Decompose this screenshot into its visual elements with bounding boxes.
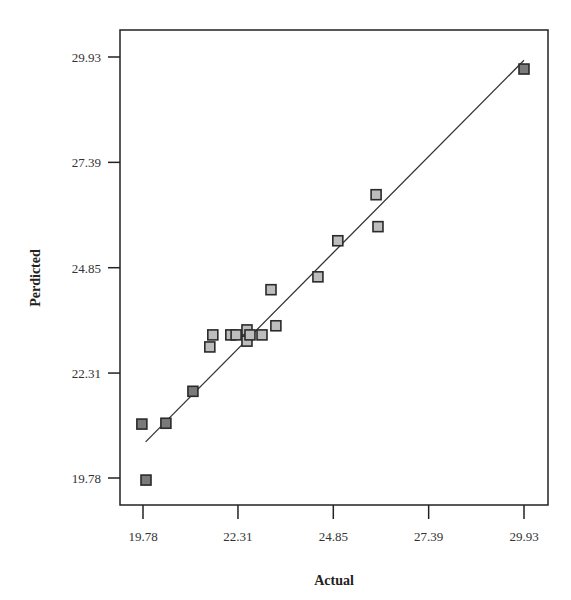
data-point-square-marker — [205, 342, 215, 352]
data-point-square-marker — [519, 64, 529, 74]
data-point-square-marker — [188, 386, 198, 396]
data-point-square-marker — [245, 330, 255, 340]
data-point-square-marker — [141, 475, 151, 485]
scatter-chart: 19.7822.3124.8527.3929.93 19.7822.3124.8… — [0, 0, 571, 600]
data-points — [137, 64, 529, 485]
x-axis-ticks: 19.7822.3124.8527.3929.93 — [128, 505, 538, 544]
data-point-square-marker — [333, 236, 343, 246]
data-point-square-marker — [266, 285, 276, 295]
data-point-square-marker — [371, 190, 381, 200]
data-point-square-marker — [257, 330, 267, 340]
y-tick-label: 29.93 — [72, 50, 101, 65]
x-tick-label: 19.78 — [128, 529, 157, 544]
x-tick-label: 24.85 — [319, 529, 348, 544]
data-point-square-marker — [208, 330, 218, 340]
x-axis-title: Actual — [314, 573, 354, 588]
data-point-square-marker — [231, 330, 241, 340]
fit-line — [146, 60, 524, 442]
y-tick-label: 24.85 — [72, 261, 101, 276]
y-tick-label: 19.78 — [72, 471, 101, 486]
y-tick-label: 22.31 — [72, 366, 101, 381]
x-tick-label: 27.39 — [414, 529, 443, 544]
y-axis-ticks: 19.7822.3124.8527.3929.93 — [72, 50, 120, 486]
data-point-square-marker — [271, 321, 281, 331]
data-point-square-marker — [373, 222, 383, 232]
y-tick-label: 27.39 — [72, 155, 101, 170]
x-tick-label: 22.31 — [223, 529, 252, 544]
data-point-square-marker — [137, 419, 147, 429]
y-axis-title: Perdicted — [28, 249, 43, 307]
x-tick-label: 29.93 — [509, 529, 538, 544]
data-point-square-marker — [161, 418, 171, 428]
data-point-square-marker — [313, 272, 323, 282]
